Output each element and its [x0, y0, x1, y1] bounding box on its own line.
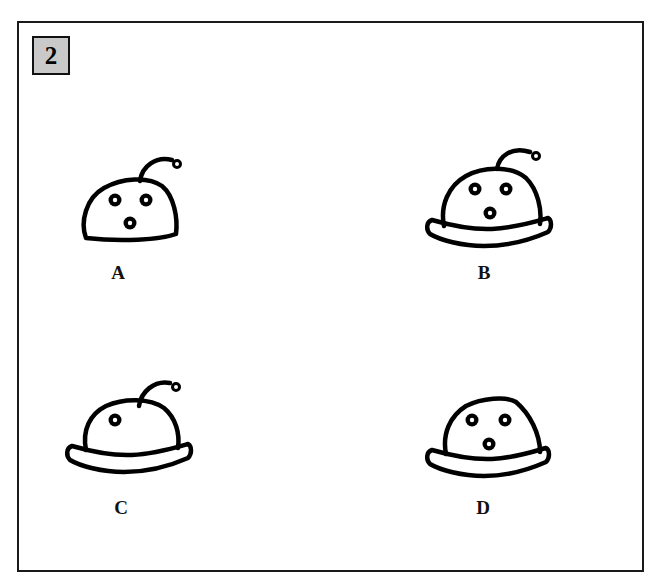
eye-dots: [466, 414, 512, 451]
eye-dots: [469, 183, 513, 220]
dome-outline: [84, 179, 177, 240]
figure-c: [67, 383, 191, 472]
brim-outline: [67, 444, 191, 472]
figure-b: [427, 150, 551, 246]
dome-outline: [85, 400, 179, 450]
option-label-d: D: [468, 498, 498, 517]
option-label-a: A: [103, 263, 133, 282]
option-label-b: B: [469, 263, 499, 282]
figures-canvas: [0, 0, 667, 588]
figure-d: [427, 399, 549, 476]
figure-a: [84, 159, 181, 240]
brim-outline: [427, 218, 551, 246]
option-label-c: C: [106, 498, 136, 517]
eye-dots: [109, 194, 153, 230]
antenna-icon: [497, 150, 530, 169]
brim-outline: [427, 448, 549, 476]
eye-dots: [109, 414, 122, 427]
